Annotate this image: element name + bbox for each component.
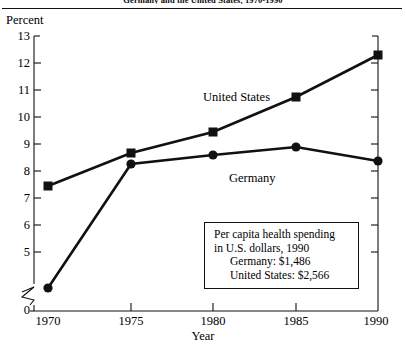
series-label-germany: Germany (229, 171, 276, 186)
y-tick-marks (34, 63, 41, 252)
plot-area (0, 0, 406, 344)
x-tick-marks (131, 303, 296, 311)
annotation-line-2: in U.S. dollars, 1990 (214, 242, 351, 256)
annotation-box: Per capita health spending in U.S. dolla… (204, 222, 359, 289)
series-label-united-states: United States (203, 90, 270, 105)
annotation-line-3: Germany: $1,486 (214, 255, 351, 269)
series-line-united-states (48, 55, 378, 186)
health-spending-chart: Germany and the United States, 1970-1990… (0, 0, 406, 344)
annotation-line-1: Per capita health spending (214, 228, 351, 242)
annotation-line-4: United States: $2,566 (214, 269, 351, 283)
y-axis-break-symbol (22, 287, 34, 305)
series-markers-united-states (44, 51, 383, 191)
